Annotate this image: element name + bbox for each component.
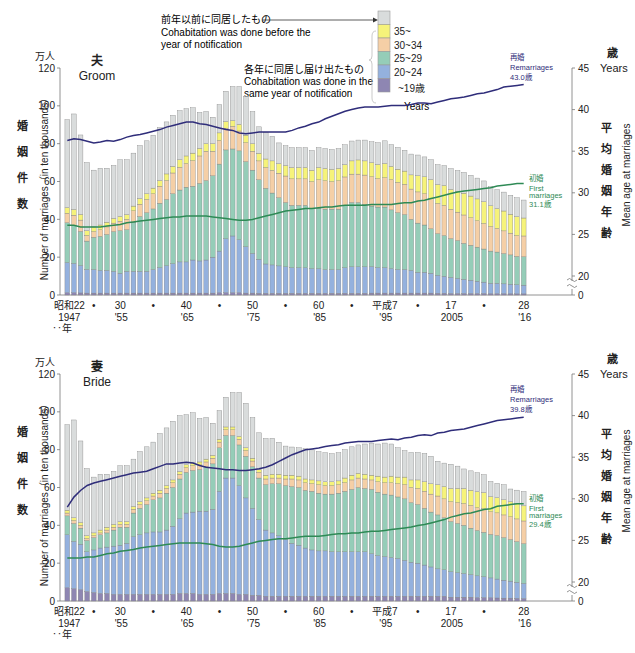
- bar-segment-25to29: [263, 485, 268, 530]
- bar-segment-35to: [435, 185, 440, 204]
- left-axis-title-jp-char: 数: [17, 503, 29, 516]
- bar-segment-to19: [72, 293, 77, 295]
- bar-segment-20to24: [98, 270, 103, 293]
- bar-segment-before: [449, 169, 454, 190]
- bar-segment-30to34: [389, 180, 394, 210]
- bar-segment-before: [475, 178, 480, 199]
- legend-swatch-a19: [378, 79, 390, 93]
- bar-segment-before: [177, 111, 182, 160]
- legend-same-jp: 各年に同居し届け出たもの: [244, 63, 364, 75]
- bar-segment-35to: [217, 133, 222, 141]
- bar-segment-to19: [124, 594, 129, 601]
- bar-1988: [336, 453, 341, 601]
- bar-segment-before: [303, 449, 308, 479]
- bar-segment-35to: [237, 124, 242, 131]
- bar-segment-35to: [270, 474, 275, 478]
- bar-segment-35to: [257, 470, 262, 473]
- bar-segment-30to34: [402, 184, 407, 214]
- bar-segment-before: [515, 198, 520, 217]
- bar-segment-35to: [78, 522, 83, 525]
- left-axis-title-jp-char: 姻: [17, 451, 28, 464]
- bar-segment-before: [415, 453, 420, 480]
- bar-1993: [369, 142, 374, 295]
- bar-segment-25to29: [138, 216, 143, 271]
- bar-1974: [244, 96, 249, 295]
- bar-segment-35to: [224, 427, 229, 430]
- bar-segment-before: [131, 153, 136, 206]
- bar-segment-30to34: [429, 494, 434, 512]
- bar-segment-35to: [482, 202, 487, 224]
- bar-1984: [310, 150, 315, 295]
- bar-segment-30to34: [468, 505, 473, 528]
- bar-segment-35to: [277, 474, 282, 478]
- chart-title-jp: 妻: [91, 359, 103, 374]
- x-axis-year-label: '16: [518, 618, 531, 629]
- bar-segment-before: [396, 448, 401, 477]
- bar-segment-25to29: [290, 205, 295, 267]
- bar-segment-before: [495, 483, 500, 497]
- bar-segment-to19: [482, 293, 487, 295]
- bar-segment-25to29: [78, 231, 83, 265]
- bar-segment-before: [396, 147, 401, 169]
- bar-segment-30to34: [91, 536, 96, 538]
- bar-segment-20to24: [197, 261, 202, 293]
- bar-segment-before: [171, 115, 176, 166]
- bar-1992: [363, 444, 368, 601]
- bar-segment-30to34: [508, 517, 513, 540]
- bar-segment-to19: [105, 293, 110, 295]
- bar-segment-30to34: [409, 189, 414, 219]
- bar-segment-25to29: [336, 493, 341, 552]
- right-axis-tick-label: 20: [578, 577, 590, 588]
- bar-segment-30to34: [244, 143, 249, 162]
- bar-segment-to19: [197, 293, 202, 295]
- bar-segment-before: [65, 425, 70, 511]
- x-axis-tick-label: 30: [115, 300, 127, 311]
- bar-segment-30to34: [244, 451, 249, 457]
- bar-segment-35to: [329, 482, 334, 486]
- bar-segment-35to: [356, 160, 361, 174]
- bar-segment-25to29: [78, 528, 83, 544]
- bar-segment-before: [316, 452, 321, 481]
- bar-segment-35to: [85, 231, 90, 236]
- bar-segment-35to: [177, 160, 182, 168]
- bar-segment-before: [91, 477, 96, 533]
- bar-segment-20to24: [244, 247, 249, 293]
- bar-segment-30to34: [184, 468, 189, 473]
- bar-segment-before: [290, 148, 295, 168]
- bar-segment-to19: [270, 293, 275, 295]
- bar-segment-30to34: [138, 505, 143, 509]
- bar-segment-before: [482, 475, 487, 493]
- bar-segment-30to34: [376, 179, 381, 207]
- bar-segment-35to: [290, 475, 295, 479]
- bar-segment-35to: [409, 480, 414, 488]
- bar-segment-20to24: [488, 578, 493, 598]
- bar-segment-30to34: [164, 488, 169, 493]
- x-axis-tick-label: 平成7: [372, 300, 398, 311]
- x-axis-minor-tick-dot: •: [152, 300, 156, 311]
- legend-before-jp: 前年以前に同居したもの: [161, 13, 271, 25]
- bar-1962: [164, 122, 169, 295]
- bar-segment-to19: [210, 293, 215, 295]
- bar-segment-before: [409, 154, 414, 175]
- bar-segment-to19: [237, 293, 242, 295]
- bar-segment-30to34: [482, 509, 487, 533]
- bar-segment-before: [356, 445, 361, 473]
- bar-segment-25to29: [396, 213, 401, 270]
- left-axis-title-en: Number of marriages（in ten thousands）: [39, 399, 50, 586]
- bar-segment-20to24: [376, 556, 381, 597]
- bar-segment-20to24: [263, 264, 268, 293]
- bar-segment-30to34: [177, 167, 182, 190]
- bar-segment-before: [488, 187, 493, 206]
- x-axis-year-label: 2005: [441, 618, 464, 629]
- bar-segment-35to: [72, 209, 77, 215]
- bar-segment-25to29: [85, 540, 90, 551]
- bar-1951: [91, 477, 96, 601]
- bar-segment-30to34: [296, 480, 301, 488]
- bar-segment-20to24: [409, 562, 414, 596]
- bar-segment-to19: [449, 597, 454, 601]
- bar-segment-30to34: [488, 512, 493, 535]
- bar-segment-35to: [402, 477, 407, 485]
- bar-2004: [442, 166, 447, 295]
- bar-segment-30to34: [435, 496, 440, 515]
- bar-1979: [277, 442, 282, 601]
